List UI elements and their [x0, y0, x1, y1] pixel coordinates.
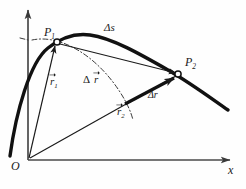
axes-group — [28, 10, 230, 160]
arc-length-label: Δs — [104, 22, 115, 33]
vector-diagram-figure: P1 P2 Δs r1 Δr Δr r2 O x — [0, 0, 246, 189]
diagram-canvas — [0, 0, 246, 189]
delta-symbol: Δ — [83, 73, 90, 85]
x-axis-label: x — [228, 164, 233, 176]
vector-label-r1: r1 — [50, 76, 58, 90]
r1-subscript: 1 — [54, 82, 57, 89]
vector-label-delta-r: Δr — [83, 74, 98, 85]
r1-base: r — [50, 75, 54, 87]
vector-label-r2: r2 — [117, 106, 125, 120]
point-marker-P2 — [175, 71, 181, 77]
origin-label: O — [11, 160, 20, 172]
scalar-label-delta-r: Δr — [148, 90, 158, 100]
r2-subscript: 2 — [121, 112, 124, 119]
r2-base: r — [117, 105, 121, 117]
p1-subscript: 1 — [51, 32, 55, 41]
p2-subscript: 2 — [192, 62, 196, 71]
delta-r-base: r — [94, 73, 98, 85]
vector-r1 — [29, 46, 55, 158]
vector-delta-r — [60, 44, 176, 73]
trajectory-curve — [10, 35, 228, 156]
point-label-p1: P1 — [44, 26, 55, 41]
point-label-p2: P2 — [185, 56, 196, 71]
